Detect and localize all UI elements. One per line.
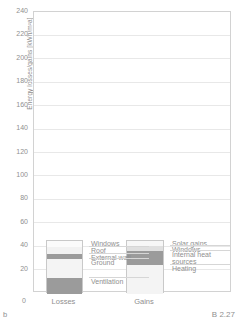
legend-item: Ground [89, 258, 149, 277]
y-tick-label: 80 [0, 194, 28, 201]
y-tick-label: 220 [0, 30, 28, 37]
bar-losses[interactable] [46, 240, 83, 293]
figure-number: B 2.27 [212, 310, 235, 319]
y-tick-label: 120 [0, 148, 28, 155]
legend-gains: Solar gainsWindowsInternal heat sourcesH… [170, 12, 230, 293]
y-axis-title: Energy losses/gains [kWh/m²a] [26, 0, 33, 139]
bar-segment [47, 247, 82, 254]
bar-segment [47, 278, 82, 294]
y-tick-label: 40 [0, 241, 28, 248]
legend-item: Internal heat sources [170, 250, 230, 264]
y-tick-label: 60 [0, 218, 28, 225]
x-label-losses: Losses [33, 297, 94, 306]
y-tick-label: 160 [0, 101, 28, 108]
y-tick-label: 20 [0, 265, 28, 272]
figure-b227: Energy losses/gains [kWh/m²a] 0204060801… [0, 0, 239, 325]
axis-zero-label: 0 [22, 297, 26, 304]
y-tick-label: 200 [0, 54, 28, 61]
x-label-gains: Gains [113, 297, 175, 306]
legend-item: Heating [170, 264, 230, 293]
subfigure-label: b [3, 310, 7, 319]
bar-segment [47, 259, 82, 278]
y-tick-label: 180 [0, 77, 28, 84]
y-tick-label: 100 [0, 171, 28, 178]
legend-item: Ventilation [89, 277, 149, 293]
y-tick-label: 240 [0, 7, 28, 14]
legend-losses: WindowsRoofExternal wallGroundVentilatio… [89, 12, 149, 293]
y-tick-label: 140 [0, 124, 28, 131]
plot-area: WindowsRoofExternal wallGroundVentilatio… [33, 11, 231, 292]
